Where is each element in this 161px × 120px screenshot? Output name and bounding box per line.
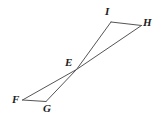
vertex-label-H: H <box>143 17 152 28</box>
segment-E-F <box>23 70 77 101</box>
segment-H-E <box>77 26 142 70</box>
vertex-label-G: G <box>43 103 51 114</box>
segment-I-H <box>111 22 142 26</box>
vertex-label-E: E <box>65 57 72 68</box>
segment-I-E <box>77 22 112 70</box>
geometry-figure: E F G H I <box>0 0 161 120</box>
segments-group <box>23 22 142 102</box>
vertex-label-F: F <box>12 94 19 105</box>
geometry-canvas <box>0 0 161 120</box>
segment-E-G <box>46 70 77 102</box>
vertex-label-I: I <box>105 6 109 17</box>
